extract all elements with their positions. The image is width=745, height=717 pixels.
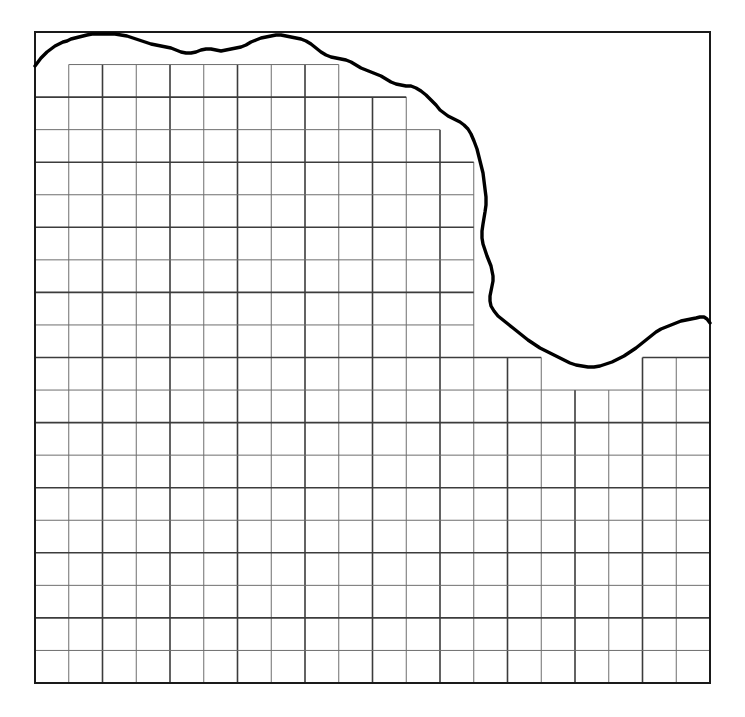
- map-figure: [0, 0, 745, 717]
- figure-container: [0, 0, 745, 717]
